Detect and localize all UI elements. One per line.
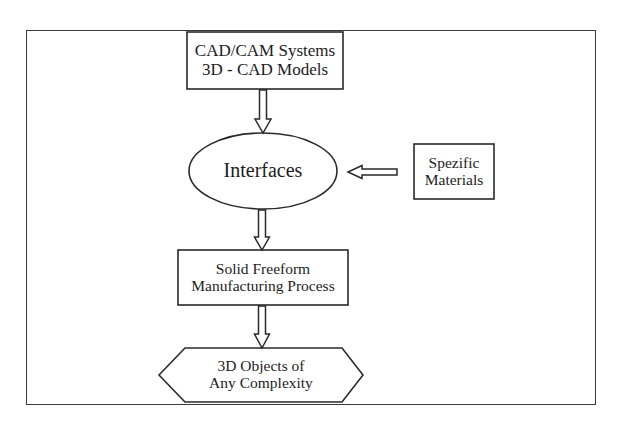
node-cad-label: CAD/CAM Systems 3D - CAD Models <box>187 32 343 89</box>
arrow-down-icon <box>255 210 270 250</box>
node-objects-label: 3D Objects of Any Complexity <box>159 348 363 402</box>
diagram-canvas: CAD/CAM Systems 3D - CAD Models Interfac… <box>0 0 624 428</box>
node-materials-line-2: Materials <box>425 172 484 189</box>
arrow-down-icon <box>255 306 270 348</box>
node-materials-label: Spezific Materials <box>414 144 494 199</box>
node-sfm-line-1: Solid Freeform <box>216 261 310 278</box>
node-cad-line-1: CAD/CAM Systems <box>195 42 335 60</box>
arrow-down-icon <box>255 90 271 133</box>
node-sfm-line-2: Manufacturing Process <box>191 278 334 295</box>
node-cad-line-2: 3D - CAD Models <box>202 61 328 79</box>
node-materials-line-1: Spezific <box>429 155 480 172</box>
node-interfaces-label: Interfaces <box>189 133 337 209</box>
node-interfaces-line-1: Interfaces <box>224 160 303 182</box>
arrow-left-icon <box>348 166 397 179</box>
node-objects-line-2: Any Complexity <box>209 375 313 392</box>
node-objects-line-1: 3D Objects of <box>218 358 305 375</box>
node-sfm-label: Solid Freeform Manufacturing Process <box>178 250 348 305</box>
